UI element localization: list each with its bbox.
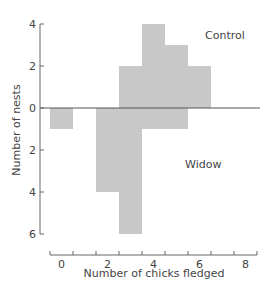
bar-control-4 xyxy=(142,24,165,108)
bar-widow-0 xyxy=(50,108,73,129)
bar-control-6 xyxy=(188,66,211,108)
bar-widow-4 xyxy=(142,108,165,129)
bar-widow-2 xyxy=(96,108,119,192)
bar-control-3 xyxy=(119,66,142,108)
bar-widow-3 xyxy=(119,108,142,234)
chart: 420246 02468 Number of nests Number of c… xyxy=(0,0,271,296)
legend-control: Control xyxy=(205,29,245,42)
bars xyxy=(50,24,211,234)
y-tick-label: 4 xyxy=(29,186,36,199)
x-axis-label: Number of chicks fledged xyxy=(84,267,225,280)
y-tick-label: 2 xyxy=(29,60,36,73)
bar-control-5 xyxy=(165,45,188,108)
y-axis: 420246 xyxy=(29,18,44,241)
y-tick-label: 6 xyxy=(29,228,36,241)
y-tick-label: 4 xyxy=(29,18,36,31)
y-tick-label: 0 xyxy=(29,102,36,115)
x-tick-label: 0 xyxy=(58,258,65,271)
y-axis-label: Number of nests xyxy=(10,84,23,176)
legend-widow: Widow xyxy=(185,158,221,171)
y-tick-label: 2 xyxy=(29,144,36,157)
x-tick-label: 8 xyxy=(242,258,249,271)
bar-widow-5 xyxy=(165,108,188,129)
